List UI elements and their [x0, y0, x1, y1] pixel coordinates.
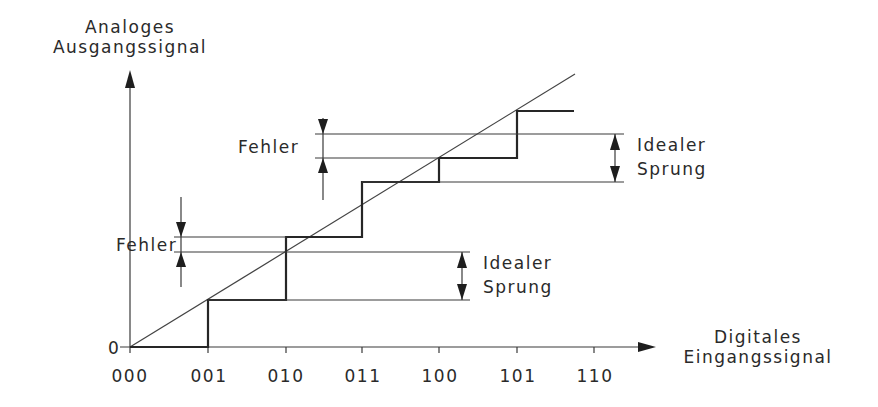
x-tick-001: 001 — [191, 366, 228, 386]
origin-label: 0 — [108, 338, 120, 358]
reference-lines — [174, 134, 624, 300]
arrow-down-icon — [610, 166, 620, 182]
actual-step-function — [130, 111, 574, 347]
arrow-down-icon — [176, 222, 186, 237]
lower-ideal-jump-label-line1: Idealer — [483, 253, 552, 273]
lower-ideal-jump-label-line2: Sprung — [483, 277, 553, 297]
upper-error-label: Fehler — [238, 137, 299, 157]
x-tick-100: 100 — [422, 366, 459, 386]
x-tick-010: 010 — [268, 366, 305, 386]
x-tick-101: 101 — [500, 366, 537, 386]
x-axis: 0 000 001 010 011 100 101 110 Digitales … — [108, 327, 833, 386]
upper-ideal-jump-label-line2: Sprung — [637, 159, 707, 179]
y-axis-arrow-icon — [125, 70, 135, 88]
upper-ideal-jump-label-line1: Idealer — [637, 135, 706, 155]
adc-transfer-diagram: Analoges Ausgangssignal 0 000 001 010 01… — [0, 0, 878, 407]
lower-ideal-jump-dimension: Idealer Sprung — [457, 252, 553, 300]
arrow-up-icon — [457, 252, 467, 268]
arrow-down-icon — [318, 119, 328, 134]
arrow-up-icon — [610, 134, 620, 150]
y-axis-label-line2: Ausgangssignal — [53, 37, 207, 57]
arrow-up-icon — [176, 252, 186, 267]
ideal-transfer-line — [130, 74, 575, 347]
arrow-down-icon — [457, 284, 467, 300]
lower-error-dimension: Fehler — [116, 197, 186, 287]
upper-error-dimension: Fehler — [238, 118, 328, 200]
arrow-up-icon — [318, 158, 328, 173]
x-axis-label-line2: Eingangssignal — [683, 347, 832, 367]
x-tick-000: 000 — [112, 366, 149, 386]
upper-ideal-jump-dimension: Idealer Sprung — [610, 134, 707, 182]
y-axis: Analoges Ausgangssignal — [53, 17, 207, 347]
x-tick-110: 110 — [577, 366, 614, 386]
x-tick-011: 011 — [345, 366, 382, 386]
y-axis-label-line1: Analoges — [85, 17, 175, 37]
x-axis-label-line1: Digitales — [714, 327, 802, 347]
x-axis-arrow-icon — [638, 342, 656, 352]
lower-error-label: Fehler — [116, 235, 177, 255]
